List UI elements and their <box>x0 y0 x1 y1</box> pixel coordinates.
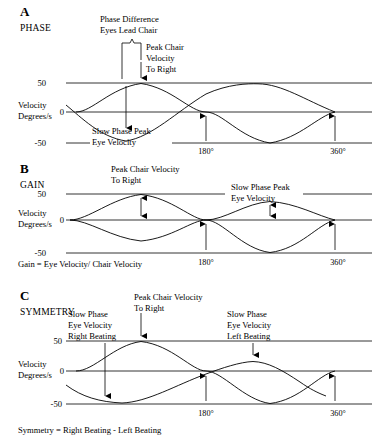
panel-b-tick-360-label: 360° <box>330 258 346 267</box>
panel-a-peak-chair-line1: Peak Chair <box>146 42 184 52</box>
panel-b-ylabel-minus50: -50 <box>35 248 46 258</box>
panel-c-kind: SYMMETRY <box>20 307 75 317</box>
panel-b: B GAIN Peak Chair Velocity To Right Slow… <box>18 161 372 269</box>
vestibular-figure: A PHASE Phase Difference Eyes Lead Chair… <box>0 0 375 441</box>
panel-c-peak-chair-line2: To Right <box>134 303 165 313</box>
panel-a-peak-chair-line2: Velocity <box>146 53 175 63</box>
panel-c-ylabel-0: 0 <box>60 366 64 376</box>
panel-c-left-beating-line1: Slow Phase <box>227 309 267 319</box>
panel-a-phase-diff-line2: Eyes Lead Chair <box>100 25 157 35</box>
panel-c-yaxis-title-line1: Velocity <box>18 359 47 369</box>
panel-b-yaxis-title-line2: Degrees/s <box>18 219 53 229</box>
panel-b-ylabel-0: 0 <box>60 215 64 225</box>
panel-c-tick-180-label: 180° <box>198 409 214 418</box>
panel-a-phase-brace <box>122 39 141 79</box>
panel-a-letter: A <box>20 4 30 19</box>
panel-a-ylabel-0: 0 <box>60 107 64 117</box>
panel-a-ylabel-50: 50 <box>37 78 46 88</box>
panel-a-slow-phase-line1: Slow Phase Peak <box>92 126 151 136</box>
panel-c-left-beating-line3: Left Beating <box>227 331 271 341</box>
panel-b-letter: B <box>20 161 29 176</box>
panel-b-chair-curve <box>70 195 335 253</box>
panel-c-letter: C <box>20 288 29 303</box>
panel-b-ylabel-50: 50 <box>37 189 46 199</box>
panel-c: C SYMMETRY Peak Chair Velocity To Right … <box>18 288 372 435</box>
panel-a-slow-phase-line2: Eye Velocity <box>92 137 137 147</box>
panel-b-slow-phase-line1: Slow Phase Peak <box>231 182 290 192</box>
panel-c-right-beating-line2: Eye Velocity <box>68 320 113 330</box>
panel-a: A PHASE Phase Difference Eyes Lead Chair… <box>18 4 372 156</box>
panel-a-yaxis-title-line1: Velocity <box>18 100 47 110</box>
figure-svg: A PHASE Phase Difference Eyes Lead Chair… <box>0 0 375 441</box>
panel-c-left-beating-line2: Eye Velocity <box>227 320 272 330</box>
panel-a-tick-180-label: 180° <box>198 147 214 156</box>
panel-a-ylabel-minus50: -50 <box>35 138 46 148</box>
panel-c-ylabel-minus50: -50 <box>51 399 62 409</box>
panel-c-yaxis-title-line2: Degrees/s <box>18 370 53 380</box>
panel-c-right-beating-line3: Right Beating <box>68 331 117 341</box>
panel-b-tick-180-label: 180° <box>198 258 214 267</box>
panel-a-phase-diff-line1: Phase Difference <box>100 14 159 24</box>
panel-c-tick-360-label: 360° <box>330 409 346 418</box>
panel-b-peak-chair-line1: Peak Chair Velocity <box>111 164 180 174</box>
panel-b-peak-chair-line2: To Right <box>111 175 142 185</box>
panel-a-yaxis-title-line2: Degrees/s <box>18 111 53 121</box>
panel-c-chair-curve <box>76 342 335 404</box>
panel-c-right-beating-line1: Slow Phase <box>68 309 108 319</box>
panel-c-caption: Symmetry = Right Beating - Left Beating <box>18 425 162 435</box>
panel-b-caption: Gain = Eye Velocity/ Chair Velocity <box>18 259 143 269</box>
panel-a-kind: PHASE <box>20 23 51 33</box>
panel-b-yaxis-title-line1: Velocity <box>18 208 47 218</box>
panel-c-peak-chair-line1: Peak Chair Velocity <box>134 292 203 302</box>
panel-a-tick-360-label: 360° <box>330 147 346 156</box>
panel-c-ylabel-50: 50 <box>53 336 62 346</box>
panel-a-peak-chair-line3: To Right <box>146 64 177 74</box>
panel-b-eye-curve <box>70 202 335 242</box>
